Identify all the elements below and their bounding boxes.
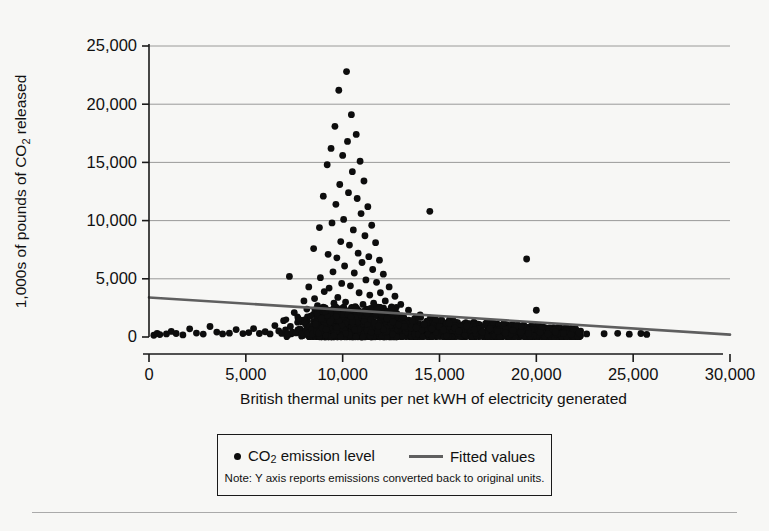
data-point	[353, 131, 360, 138]
data-point	[365, 253, 372, 260]
data-point	[395, 321, 402, 328]
data-point	[179, 332, 186, 339]
data-point	[357, 158, 364, 165]
data-point	[213, 329, 220, 336]
data-point	[341, 263, 348, 270]
data-point	[614, 330, 621, 337]
data-point	[360, 301, 367, 308]
data-point	[336, 181, 343, 188]
data-point	[377, 289, 384, 296]
data-point	[601, 330, 608, 337]
data-point	[340, 216, 347, 223]
data-point	[428, 325, 435, 332]
fitted-line-icon	[409, 455, 443, 458]
data-point	[328, 145, 335, 152]
data-point	[421, 321, 428, 328]
data-point	[173, 330, 180, 337]
data-point	[446, 320, 453, 327]
data-point	[643, 331, 650, 338]
data-point	[250, 325, 257, 332]
data-point	[352, 303, 359, 310]
data-point	[355, 250, 362, 257]
legend-label-fit: Fitted values	[450, 448, 535, 465]
footer-rule	[32, 512, 737, 513]
data-point	[267, 331, 274, 338]
data-point	[335, 87, 342, 94]
data-point	[409, 317, 416, 324]
legend-entry-scatter: CO2 emission level	[234, 447, 375, 465]
data-point	[375, 323, 382, 330]
data-point	[523, 256, 530, 263]
legend-entries: CO2 emission level Fitted values	[218, 447, 551, 465]
data-point	[502, 330, 509, 337]
data-point	[354, 195, 361, 202]
data-point	[363, 277, 370, 284]
data-point	[568, 331, 575, 338]
data-point	[380, 271, 387, 278]
data-point	[362, 232, 369, 239]
legend-entry-fit: Fitted values	[409, 448, 535, 465]
data-point	[370, 300, 377, 307]
data-point	[359, 259, 366, 266]
data-point	[345, 189, 352, 196]
data-point	[361, 178, 368, 185]
data-point	[325, 251, 332, 258]
data-point	[545, 331, 552, 338]
data-point	[372, 239, 379, 246]
data-point	[386, 284, 393, 291]
data-point	[337, 238, 344, 245]
data-point	[226, 330, 233, 337]
data-point	[397, 301, 404, 308]
data-point	[384, 315, 391, 322]
scatter-chart: 05,00010,00015,00020,00025,00005,00010,0…	[0, 0, 769, 430]
data-point	[207, 323, 214, 330]
data-point	[346, 242, 353, 249]
data-point	[200, 331, 207, 338]
data-point	[358, 210, 365, 217]
data-point	[471, 327, 478, 334]
x-tick-label-25000: 25,000	[608, 365, 658, 383]
data-point	[369, 266, 376, 273]
y-tick-label-5000: 5,000	[96, 269, 137, 287]
data-point	[342, 299, 349, 306]
y-tick-label-10000: 10,000	[87, 211, 137, 229]
data-point	[494, 328, 501, 335]
data-point	[291, 309, 298, 316]
data-point	[583, 331, 590, 338]
data-point	[286, 273, 293, 280]
data-point	[364, 203, 371, 210]
x-tick-label-0: 0	[144, 365, 153, 383]
data-point	[338, 280, 345, 287]
data-point	[305, 284, 312, 291]
legend-label-scatter: CO2 emission level	[248, 447, 375, 465]
data-point	[390, 318, 397, 325]
y-axis-title: 1,000s of pounds of CO2 released	[12, 75, 32, 309]
data-point	[348, 111, 355, 118]
data-point	[310, 245, 317, 252]
data-point	[323, 326, 330, 333]
data-point	[373, 279, 380, 286]
y-tick-label-15000: 15,000	[87, 153, 137, 171]
data-point	[517, 329, 524, 336]
data-point	[376, 257, 383, 264]
data-point	[301, 298, 308, 305]
data-point	[326, 285, 333, 292]
scatter-points	[150, 68, 650, 338]
data-point	[537, 329, 544, 336]
data-point	[525, 330, 532, 337]
data-point	[413, 324, 420, 331]
data-point	[327, 318, 334, 325]
data-point	[463, 323, 470, 330]
data-point	[280, 317, 287, 324]
data-point	[320, 193, 327, 200]
data-point	[392, 293, 399, 300]
data-point	[576, 329, 583, 336]
y-tick-label-20000: 20,000	[87, 95, 137, 113]
data-point	[193, 330, 200, 337]
x-axis-title: British thermal units per net kWH of ele…	[240, 390, 627, 407]
x-tick-label-30000: 30,000	[705, 365, 755, 383]
data-point	[560, 330, 567, 337]
data-point	[486, 325, 493, 332]
data-point	[240, 330, 247, 337]
data-point	[510, 327, 517, 334]
